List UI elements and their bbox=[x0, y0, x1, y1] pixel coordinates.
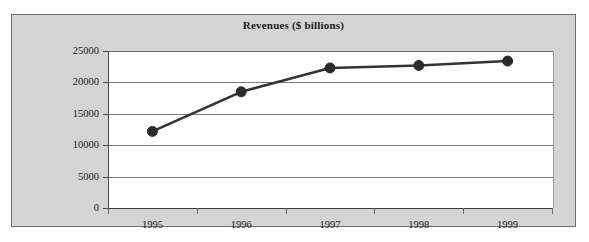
data-point-marker bbox=[147, 126, 157, 136]
data-point-marker bbox=[503, 56, 513, 66]
series-markers bbox=[147, 56, 512, 136]
data-point-marker bbox=[414, 60, 424, 70]
x-axis-tick-label: 1999 bbox=[478, 220, 538, 231]
y-axis-tick-label: 15000 bbox=[37, 109, 99, 120]
data-series-revenues bbox=[108, 51, 553, 209]
chart-figure: Revenues ($ billions) 050001000015000200… bbox=[0, 0, 589, 242]
x-axis-tick-label: 1996 bbox=[211, 220, 271, 231]
chart-title: Revenues ($ billions) bbox=[12, 19, 575, 31]
y-axis-tick-label: 10000 bbox=[37, 140, 99, 151]
data-point-marker bbox=[236, 87, 246, 97]
data-point-marker bbox=[325, 63, 335, 73]
x-axis-tick-label: 1997 bbox=[300, 220, 360, 231]
x-axis-tick-label: 1995 bbox=[122, 220, 182, 231]
y-axis-tick-label: 0 bbox=[37, 203, 99, 214]
x-axis-tick-label: 1998 bbox=[389, 220, 449, 231]
y-axis-tick-label: 20000 bbox=[37, 77, 99, 88]
chart-panel: Revenues ($ billions) 050001000015000200… bbox=[11, 14, 576, 227]
y-axis-tick-label: 25000 bbox=[37, 46, 99, 57]
y-axis-tick-label: 5000 bbox=[37, 172, 99, 183]
